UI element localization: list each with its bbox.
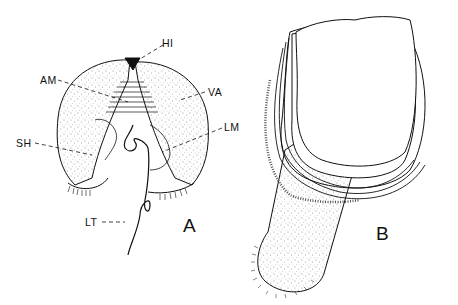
label-am: AM: [40, 75, 57, 86]
label-va: VA: [208, 87, 222, 98]
label-hi: HI: [162, 38, 174, 49]
shell-interior: [296, 17, 416, 166]
lophophore-tentacle: [124, 125, 150, 255]
label-sh: SH: [16, 138, 32, 149]
figure-illustration: [0, 0, 458, 305]
label-lt: LT: [85, 217, 97, 228]
right-valve: [135, 62, 208, 185]
panel-b-drawing: [251, 17, 425, 298]
left-valve: [57, 60, 130, 185]
panel-label-a: A: [183, 216, 196, 235]
panel-label-b: B: [376, 224, 389, 243]
label-lm: LM: [224, 122, 240, 133]
